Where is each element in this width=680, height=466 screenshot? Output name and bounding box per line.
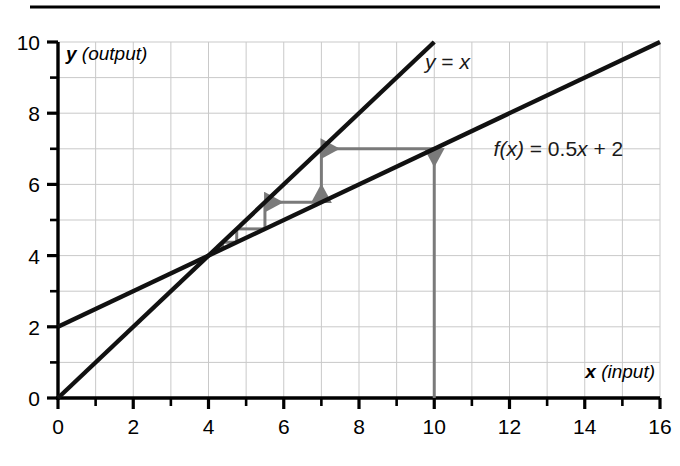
grid-lines	[58, 42, 660, 398]
x-tick-label: 2	[127, 415, 139, 438]
y-tick-label: 2	[28, 316, 40, 339]
x-tick-label: 0	[52, 415, 64, 438]
x-axis-label: x (input)	[584, 361, 655, 382]
cobweb-plot: 02468101214160246810 y (output) x (input…	[0, 0, 680, 466]
x-tick-label: 16	[648, 415, 671, 438]
axis-lines	[56, 42, 660, 400]
identity-line-label: y = x	[423, 50, 471, 73]
axis-ticks	[47, 42, 660, 409]
tick-labels: 02468101214160246810	[17, 31, 672, 438]
x-tick-label: 10	[423, 415, 446, 438]
x-tick-label: 4	[203, 415, 215, 438]
figure-container: 02468101214160246810 y (output) x (input…	[0, 0, 680, 466]
cobweb-arrows	[216, 149, 435, 398]
x-tick-label: 6	[278, 415, 290, 438]
y-tick-label: 0	[28, 387, 40, 410]
y-tick-label: 4	[28, 245, 40, 268]
x-tick-label: 8	[353, 415, 365, 438]
function-line-label: f(x) = 0.5x + 2	[494, 137, 624, 160]
svg-text:y (output): y (output)	[65, 43, 147, 64]
y-axis-label: y (output)	[65, 43, 147, 64]
y-tick-label: 8	[28, 102, 40, 125]
x-tick-label: 14	[573, 415, 597, 438]
y-tick-label: 10	[17, 31, 40, 54]
svg-text:x (input): x (input)	[584, 361, 655, 382]
x-tick-label: 12	[498, 415, 521, 438]
y-tick-label: 6	[28, 173, 40, 196]
